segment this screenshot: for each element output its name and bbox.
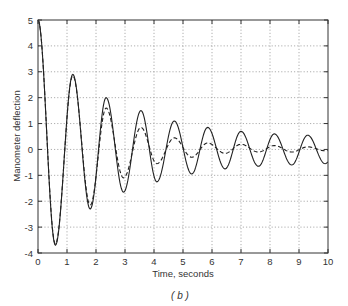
y-tick-label: -2 <box>25 196 33 207</box>
x-tick-label: 6 <box>209 256 214 267</box>
x-axis-label: Time, seconds <box>152 268 214 279</box>
y-tick-label: 0 <box>28 144 33 155</box>
x-tick-label: 2 <box>93 256 98 267</box>
x-tick-label: 3 <box>122 256 127 267</box>
y-tick-label: -3 <box>25 222 33 233</box>
x-tick-label: 0 <box>35 256 40 267</box>
axis-ticks: 012345678910-4-3-2-1012345 <box>25 15 334 268</box>
y-tick-label: 4 <box>28 40 33 51</box>
x-tick-label: 10 <box>323 256 334 267</box>
y-tick-label: -4 <box>25 248 33 259</box>
x-tick-label: 7 <box>238 256 243 267</box>
y-tick-label: 5 <box>28 15 33 26</box>
x-tick-label: 5 <box>180 256 185 267</box>
x-tick-label: 9 <box>296 256 301 267</box>
y-tick-label: 3 <box>28 66 33 77</box>
x-tick-label: 1 <box>64 256 69 267</box>
y-tick-label: 2 <box>28 92 33 103</box>
chart: 012345678910-4-3-2-1012345 Time, seconds… <box>0 0 348 306</box>
dashed-curve <box>38 20 328 244</box>
y-tick-label: 1 <box>28 118 33 129</box>
y-tick-label: -1 <box>25 170 33 181</box>
x-tick-label: 4 <box>151 256 156 267</box>
figure-caption: ( b ) <box>171 290 189 301</box>
x-tick-label: 8 <box>267 256 272 267</box>
y-axis-label: Manometer deflection <box>11 90 22 181</box>
